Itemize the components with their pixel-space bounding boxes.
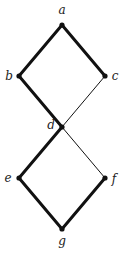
node-a — [59, 22, 64, 27]
edge-a-c — [62, 25, 105, 76]
node-label-b: b — [5, 69, 13, 83]
edge-d-f — [62, 127, 105, 178]
edge-a-b — [19, 25, 62, 76]
node-label-g: g — [58, 234, 66, 248]
node-b — [16, 73, 21, 78]
node-e — [16, 175, 21, 180]
node-label-a: a — [58, 3, 65, 17]
node-d — [59, 124, 64, 129]
node-c — [102, 73, 107, 78]
node-label-c: c — [112, 69, 119, 83]
node-label-d: d — [47, 118, 55, 132]
edge-e-g — [19, 178, 62, 229]
edge-c-d — [62, 76, 105, 127]
node-label-f: f — [111, 172, 119, 186]
hasse-diagram: abcdefg — [0, 0, 123, 256]
edge-b-d — [19, 76, 62, 127]
node-f — [102, 175, 107, 180]
edge-f-g — [62, 178, 105, 229]
node-label-e: e — [4, 171, 11, 185]
nodes-group — [16, 22, 107, 231]
node-g — [59, 226, 64, 231]
edge-d-e — [19, 127, 62, 178]
